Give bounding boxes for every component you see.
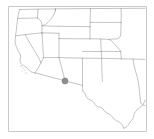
coastal-speck bbox=[25, 70, 26, 71]
location-marker[interactable] bbox=[62, 78, 68, 84]
map-thumbnail[interactable] bbox=[0, 0, 154, 139]
coastal-speck bbox=[25, 72, 26, 73]
coastal-speck bbox=[22, 71, 23, 72]
coastal-speck bbox=[20, 65, 21, 66]
coastal-speck bbox=[22, 67, 23, 68]
map-frame bbox=[9, 7, 147, 132]
location-marker-dot[interactable] bbox=[62, 78, 68, 84]
map-canvas[interactable] bbox=[0, 0, 154, 139]
